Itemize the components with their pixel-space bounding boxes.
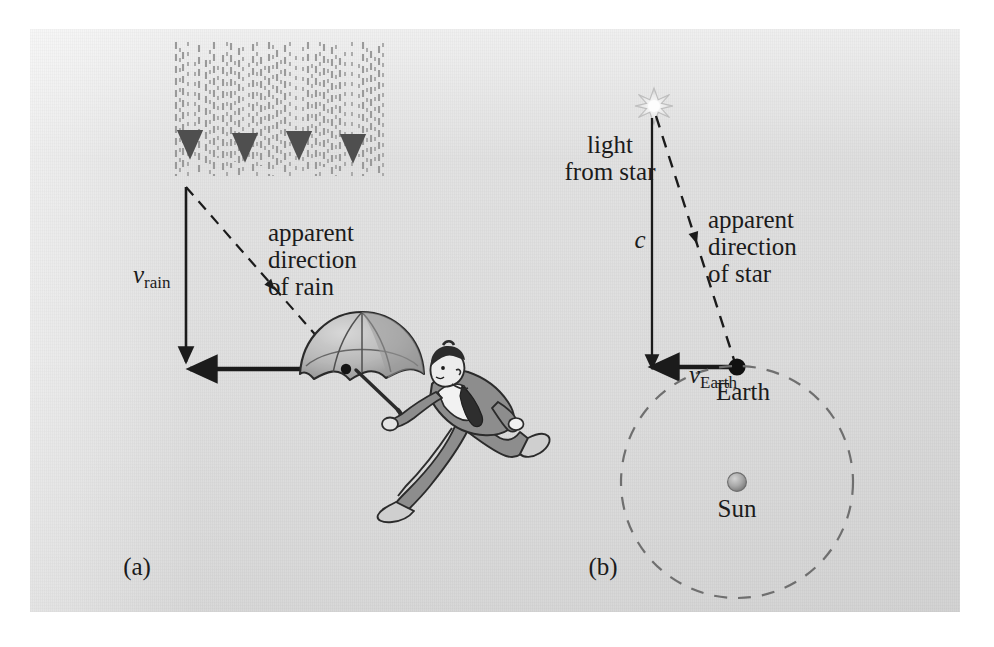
v-earth-symbol: v [689, 361, 700, 388]
runner-cuff [509, 418, 524, 430]
v-rain-symbol: v [133, 261, 144, 288]
speed-of-light-label: c [628, 226, 652, 253]
figure-artwork [0, 0, 994, 647]
runner-with-umbrella-illustration [300, 312, 550, 522]
panel-a-caption: (a) [114, 553, 160, 580]
v-rain-label: vrain [108, 234, 186, 315]
apparent-direction-of-star-label: apparent direction of star [708, 206, 870, 287]
apparent-star-arrowhead [689, 231, 702, 245]
earth-label: Earth [700, 378, 786, 405]
v-rain-subscript: rain [144, 273, 170, 292]
figure-root: vrain apparent direction of rain (a) lig… [0, 0, 994, 647]
runner-trouser-front [396, 424, 468, 510]
panel-b-caption: (b) [580, 553, 626, 580]
runner-eye [441, 366, 445, 370]
apparent-direction-of-rain-label: apparent direction of rain [268, 219, 440, 300]
sun-sphere [728, 473, 747, 492]
light-from-star-label: light from star [558, 131, 662, 185]
umbrella-center-dot [341, 364, 351, 374]
sun-label: Sun [702, 495, 772, 522]
runner-hand [382, 418, 398, 431]
star-icon [635, 88, 673, 124]
